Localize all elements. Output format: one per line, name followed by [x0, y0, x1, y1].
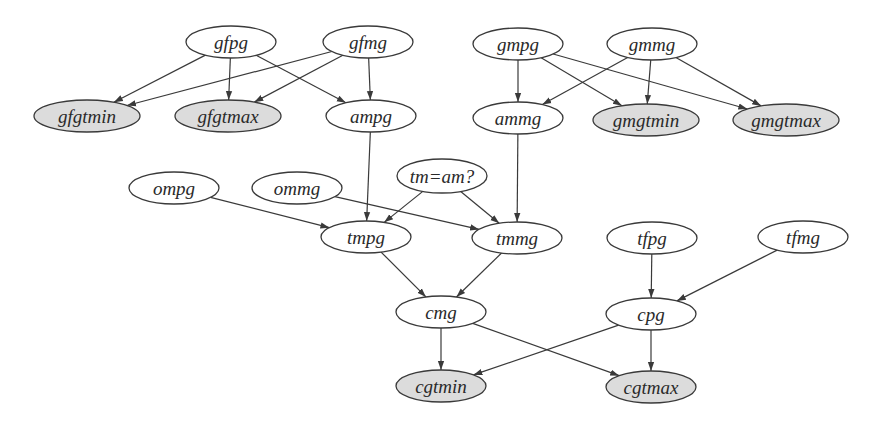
node-cpg: cpg — [606, 298, 696, 330]
node-label: gmmg — [629, 34, 675, 55]
node-label: cgtmax — [624, 377, 679, 398]
node-label: cmg — [425, 302, 457, 323]
node-ammg: ammg — [473, 102, 563, 134]
edge-gmmg-to-ammg — [542, 57, 627, 104]
node-gmmg: gmmg — [607, 28, 697, 60]
node-gmgtmax: gmgtmax — [733, 104, 839, 136]
node-label: gfgtmin — [58, 106, 116, 127]
node-label: ommg — [274, 178, 320, 199]
node-tfpg: tfpg — [607, 222, 697, 254]
node-gfmg: gfmg — [323, 26, 413, 58]
node-label: tmpg — [347, 227, 385, 248]
edge-gfpg-to-ampg — [256, 55, 346, 102]
edge-ammg-to-tmmg — [517, 134, 518, 222]
node-gfgtmin: gfgtmin — [34, 100, 140, 132]
node-cgtmin: cgtmin — [396, 370, 486, 402]
node-cgtmax: cgtmax — [606, 371, 696, 403]
node-label: tm=am? — [410, 166, 475, 187]
node-gmpg: gmpg — [473, 28, 563, 60]
edge-tmam-to-tmpg — [384, 191, 423, 222]
node-ommg: ommg — [252, 172, 342, 204]
edge-tmpg-to-cmg — [381, 252, 426, 297]
edge-tmam-to-tmmg — [461, 191, 500, 223]
node-cmg: cmg — [396, 296, 486, 328]
node-ompg: ompg — [129, 172, 219, 204]
node-gfpg: gfpg — [186, 26, 276, 58]
node-label: ampg — [350, 106, 392, 127]
edge-tfpg-to-cpg — [651, 254, 652, 298]
node-gfgtmax: gfgtmax — [175, 100, 281, 132]
node-label: cgtmin — [415, 376, 467, 397]
edge-gfmg-to-gfgtmax — [254, 55, 343, 102]
node-label: ompg — [153, 178, 195, 199]
dependency-graph: gfpggfmggmpggmmggfgtmingfgtmaxampgammggm… — [0, 0, 878, 426]
node-gmgtmin: gmgtmin — [593, 104, 699, 136]
node-ampg: ampg — [326, 100, 416, 132]
node-label: gfmg — [349, 32, 387, 53]
node-label: tfmg — [786, 227, 820, 248]
node-tmpg: tmpg — [321, 221, 411, 253]
node-label: ammg — [495, 108, 541, 129]
edge-gfmg-to-ampg — [369, 58, 371, 100]
node-tmam: tm=am? — [397, 159, 487, 193]
edge-gmmg-to-gmgtmax — [676, 58, 761, 106]
node-label: tfpg — [637, 228, 667, 249]
edge-tmmg-to-cmg — [456, 253, 501, 297]
node-tmmg: tmmg — [472, 222, 562, 254]
node-label: gfgtmax — [197, 106, 259, 127]
node-label: gmgtmax — [751, 110, 821, 131]
node-label: cpg — [637, 304, 664, 325]
node-tfmg: tfmg — [758, 221, 848, 253]
node-label: gfpg — [214, 32, 248, 53]
edge-tfmg-to-cpg — [677, 250, 777, 301]
node-label: gmgtmin — [613, 110, 680, 131]
edge-ampg-to-tmpg — [367, 132, 371, 221]
node-label: tmmg — [496, 228, 538, 249]
node-label: gmpg — [497, 34, 539, 55]
edge-gfpg-to-gfgtmin — [114, 55, 206, 102]
